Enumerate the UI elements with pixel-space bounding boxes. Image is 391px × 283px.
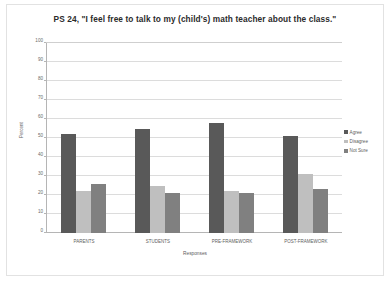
bar: [224, 191, 239, 233]
x-axis-category-labels: PARENTSSTUDENTSPRE-FRAMEWORKPOST-FRAMEWO…: [47, 236, 343, 250]
bar-group: [268, 43, 342, 233]
legend-item[interactable]: Disagree: [344, 138, 386, 144]
bar: [135, 129, 150, 234]
bar: [239, 193, 254, 233]
legend-item[interactable]: Not Sure: [344, 148, 386, 154]
bar-group: [121, 43, 195, 233]
legend-item[interactable]: Agree: [344, 129, 386, 135]
y-tick-label: 80: [38, 76, 43, 81]
legend-swatch-icon: [344, 149, 348, 153]
legend-label: Not Sure: [350, 148, 368, 153]
bar: [283, 136, 298, 233]
legend-label: Disagree: [350, 139, 368, 144]
x-axis-category-label: PRE-FRAMEWORK: [195, 236, 269, 250]
x-axis-category-label: PARENTS: [47, 236, 121, 250]
legend-swatch-icon: [344, 140, 348, 144]
chart-title: PS 24, "I feel free to talk to my (child…: [7, 14, 383, 24]
y-tick-label: 20: [38, 190, 43, 195]
x-axis-title: Responses: [47, 251, 343, 256]
bar-group: [195, 43, 269, 233]
bar: [61, 134, 76, 233]
y-tick-label: 90: [38, 57, 43, 62]
y-tick-label: 10: [38, 209, 43, 214]
x-axis-category-label: POST-FRAMEWORK: [269, 236, 343, 250]
y-tick-label: 60: [38, 114, 43, 119]
y-tick-label: 40: [38, 152, 43, 157]
bar: [209, 123, 224, 233]
bar: [313, 189, 328, 233]
legend-label: Agree: [350, 130, 362, 135]
plot-area: 0102030405060708090100: [46, 43, 342, 233]
bar: [165, 193, 180, 233]
y-tick-label: 70: [38, 95, 43, 100]
y-tick-label: 30: [38, 171, 43, 176]
bar: [91, 184, 106, 233]
bar: [298, 174, 313, 233]
y-tick-label: 0: [40, 228, 43, 233]
legend-swatch-icon: [344, 130, 348, 134]
bars-layer: [47, 43, 342, 233]
y-tick-label: 50: [38, 133, 43, 138]
chart-frame: PS 24, "I feel free to talk to my (child…: [6, 4, 384, 276]
y-tick-label: 100: [35, 38, 43, 43]
x-axis-category-label: STUDENTS: [121, 236, 195, 250]
bar-group: [47, 43, 121, 233]
chart-legend: AgreeDisagreeNot Sure: [344, 129, 386, 157]
bar: [76, 191, 91, 233]
y-axis-title: Percent: [19, 122, 24, 138]
bar: [150, 186, 165, 234]
